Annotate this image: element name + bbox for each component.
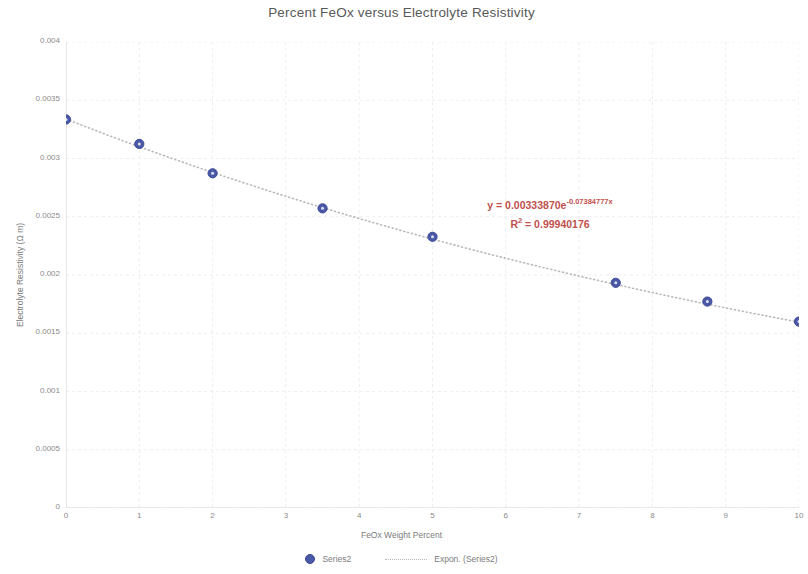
y-tick-label: 0.0035 bbox=[14, 94, 60, 103]
x-tick-label: 4 bbox=[344, 511, 374, 520]
plot-area bbox=[66, 42, 799, 508]
legend-entry-trendline[interactable]: Expon. (Series2) bbox=[385, 554, 497, 564]
trendline-equation-annotation: y = 0.00333870e-0.07384777x R2 = 0.99940… bbox=[450, 194, 650, 231]
x-tick-label: 9 bbox=[711, 511, 741, 520]
legend-label-trendline: Expon. (Series2) bbox=[434, 554, 497, 564]
x-axis-tick-labels: 012345678910 bbox=[66, 511, 799, 527]
data-point-marker-highlight bbox=[321, 207, 324, 210]
data-point[interactable] bbox=[135, 139, 144, 148]
chart-legend: Series2 Expon. (Series2) bbox=[0, 554, 803, 564]
x-tick-label: 1 bbox=[124, 511, 154, 520]
y-axis-tick-labels: 00.00050.0010.00150.0020.00250.0030.0035… bbox=[10, 42, 60, 508]
x-tick-label: 6 bbox=[491, 511, 521, 520]
x-tick-label: 10 bbox=[784, 511, 808, 520]
data-point[interactable] bbox=[794, 317, 799, 326]
chart-title: Percent FeOx versus Electrolyte Resistiv… bbox=[0, 5, 803, 20]
data-point-marker-highlight bbox=[706, 300, 709, 303]
legend-marker-circle-icon bbox=[305, 554, 315, 564]
y-tick-label: 0 bbox=[14, 502, 60, 511]
y-tick-label: 0.0025 bbox=[14, 211, 60, 220]
legend-entry-series[interactable]: Series2 bbox=[305, 554, 351, 564]
x-tick-label: 5 bbox=[418, 511, 448, 520]
trendline-equation-line: y = 0.00333870e-0.07384777x bbox=[450, 194, 650, 213]
data-point[interactable] bbox=[208, 169, 217, 178]
y-tick-label: 0.0015 bbox=[14, 327, 60, 336]
data-point-marker-highlight bbox=[614, 281, 617, 284]
y-tick-label: 0.002 bbox=[14, 269, 60, 278]
x-axis-title: FeOx Weight Percent bbox=[0, 530, 803, 540]
legend-dotted-line-icon bbox=[385, 559, 427, 560]
data-point[interactable] bbox=[318, 204, 327, 213]
data-point-marker-highlight bbox=[211, 172, 214, 175]
equation-body: y = 0.00333870e bbox=[487, 199, 566, 211]
data-point[interactable] bbox=[611, 278, 620, 287]
r-squared-line: R2 = 0.99940176 bbox=[450, 213, 650, 232]
data-point[interactable] bbox=[703, 297, 712, 306]
x-tick-label: 7 bbox=[564, 511, 594, 520]
x-tick-label: 3 bbox=[271, 511, 301, 520]
plot-canvas bbox=[66, 42, 799, 508]
r-squared-value: = 0.99940176 bbox=[522, 217, 589, 229]
y-tick-label: 0.003 bbox=[14, 153, 60, 162]
trendline-path bbox=[66, 119, 799, 322]
y-tick-label: 0.0005 bbox=[14, 444, 60, 453]
data-point-marker-highlight bbox=[138, 142, 141, 145]
equation-exponent: -0.07384777x bbox=[566, 197, 612, 206]
data-point[interactable] bbox=[66, 115, 71, 124]
y-tick-label: 0.001 bbox=[14, 386, 60, 395]
legend-label-series: Series2 bbox=[322, 554, 351, 564]
data-point[interactable] bbox=[428, 232, 437, 241]
y-tick-label: 0.004 bbox=[14, 36, 60, 45]
x-tick-label: 8 bbox=[637, 511, 667, 520]
x-tick-label: 2 bbox=[198, 511, 228, 520]
r-squared-symbol: R bbox=[510, 217, 518, 229]
x-tick-label: 0 bbox=[51, 511, 81, 520]
data-point-marker-highlight bbox=[431, 235, 434, 238]
